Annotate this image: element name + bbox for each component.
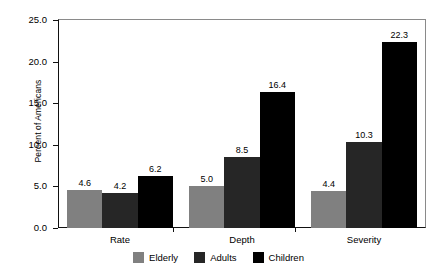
legend-swatch-icon — [253, 252, 264, 263]
bar-value-label: 4.6 — [67, 179, 102, 188]
bar-chart: Percent of Americans 0.05.010.015.020.02… — [0, 0, 437, 279]
legend-label: Adults — [210, 253, 236, 263]
legend-item-children[interactable]: Children — [253, 252, 304, 263]
bar-value-label: 8.5 — [224, 146, 259, 155]
bars-layer: 4.64.26.25.08.516.44.410.322.3 — [59, 20, 425, 228]
bar-value-label: 16.4 — [260, 81, 295, 90]
legend-item-adults[interactable]: Adults — [194, 252, 236, 263]
bar-value-label: 22.3 — [382, 31, 417, 40]
bar-value-label: 6.2 — [138, 165, 173, 174]
legend-swatch-icon — [194, 252, 205, 263]
bar-rate-adults — [102, 193, 137, 228]
bar-depth-children — [260, 92, 295, 228]
y-tick-label: 20.0 — [1, 57, 47, 67]
x-category-label-rate: Rate — [67, 234, 173, 245]
bar-rate-children — [138, 176, 173, 228]
legend-item-elderly[interactable]: Elderly — [133, 252, 178, 263]
legend-label: Elderly — [149, 253, 178, 263]
y-tick-label: 15.0 — [1, 98, 47, 108]
y-tick-label: 0.0 — [1, 223, 47, 233]
legend-label: Children — [269, 253, 304, 263]
bar-value-label: 10.3 — [346, 131, 381, 140]
y-tick-label: 5.0 — [1, 181, 47, 191]
x-category-label-severity: Severity — [311, 234, 417, 245]
y-tick-label: 25.0 — [1, 15, 47, 25]
x-tick-mark — [295, 228, 296, 232]
x-category-label-depth: Depth — [189, 234, 295, 245]
bar-severity-children — [382, 42, 417, 228]
bar-depth-adults — [224, 157, 259, 228]
bar-depth-elderly — [189, 186, 224, 228]
y-tick-mark — [53, 228, 58, 229]
bar-severity-adults — [346, 142, 381, 228]
bar-rate-elderly — [67, 190, 102, 228]
y-axis-ticks: 0.05.010.015.020.025.0 — [0, 0, 58, 279]
bar-value-label: 4.2 — [102, 182, 137, 191]
bar-value-label: 4.4 — [311, 180, 346, 189]
x-tick-mark — [173, 228, 174, 232]
bar-severity-elderly — [311, 191, 346, 228]
bar-value-label: 5.0 — [189, 175, 224, 184]
chart-legend: ElderlyAdultsChildren — [0, 252, 437, 263]
legend-swatch-icon — [133, 252, 144, 263]
y-tick-label: 10.0 — [1, 140, 47, 150]
